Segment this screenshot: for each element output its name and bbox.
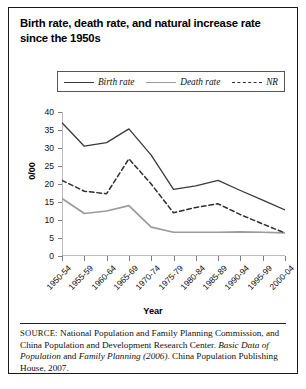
- x-tick-mark: [62, 256, 63, 261]
- x-tick-mark: [84, 256, 85, 261]
- y-tick-label: 20: [38, 179, 54, 189]
- legend-item-birth-rate: Birth rate: [64, 77, 134, 87]
- series-line-death-rate: [62, 198, 285, 233]
- x-tick-mark: [174, 256, 175, 261]
- legend-swatch-solid-gray-icon: [146, 78, 176, 86]
- y-tick-mark: [58, 238, 62, 239]
- y-tick-mark: [58, 184, 62, 185]
- x-tick-mark: [196, 256, 197, 261]
- y-tick-mark: [58, 112, 62, 113]
- legend-label-nr: NR: [266, 77, 278, 87]
- y-tick-label: 0: [38, 251, 54, 261]
- figure-panel: Birth rate, death rate, and natural incr…: [0, 0, 306, 389]
- legend-item-nr: NR: [232, 77, 278, 87]
- legend-label-birth-rate: Birth rate: [98, 77, 134, 87]
- series-line-birth-rate: [62, 123, 285, 210]
- source-divider: [20, 323, 286, 324]
- y-tick-label: 40: [38, 107, 54, 117]
- legend-label-death-rate: Death rate: [180, 77, 220, 87]
- chart-legend: Birth rate Death rate NR: [57, 71, 285, 92]
- y-tick-mark: [58, 202, 62, 203]
- y-tick-label: 5: [38, 233, 54, 243]
- y-axis-label: 0/00: [27, 151, 37, 191]
- source-text-2: and: [61, 351, 79, 361]
- source-prefix: SOURCE:: [20, 328, 58, 338]
- y-tick-mark: [58, 148, 62, 149]
- y-tick-label: 30: [38, 143, 54, 153]
- x-tick-mark: [263, 256, 264, 261]
- y-tick-mark: [58, 166, 62, 167]
- y-tick-mark: [58, 220, 62, 221]
- x-tick-mark: [151, 256, 152, 261]
- source-italic-2: Family Planning (2006): [79, 351, 168, 361]
- legend-item-death-rate: Death rate: [146, 77, 220, 87]
- x-axis-label: Year: [0, 306, 306, 316]
- x-tick-mark: [218, 256, 219, 261]
- y-tick-label: 15: [38, 197, 54, 207]
- source-note: SOURCE: National Population and Family P…: [20, 328, 288, 374]
- y-tick-label: 25: [38, 161, 54, 171]
- legend-swatch-dashed-icon: [232, 78, 262, 86]
- y-tick-mark: [58, 130, 62, 131]
- y-tick-label: 35: [38, 125, 54, 135]
- plot-area: [62, 112, 285, 256]
- x-tick-mark: [240, 256, 241, 261]
- y-tick-label: 10: [38, 215, 54, 225]
- x-tick-mark: [107, 256, 108, 261]
- page-title: Birth rate, death rate, and natural incr…: [20, 16, 288, 45]
- x-tick-mark: [129, 256, 130, 261]
- chart-lines: [62, 112, 285, 256]
- legend-swatch-solid-dark-icon: [64, 78, 94, 86]
- x-tick-mark: [285, 256, 286, 261]
